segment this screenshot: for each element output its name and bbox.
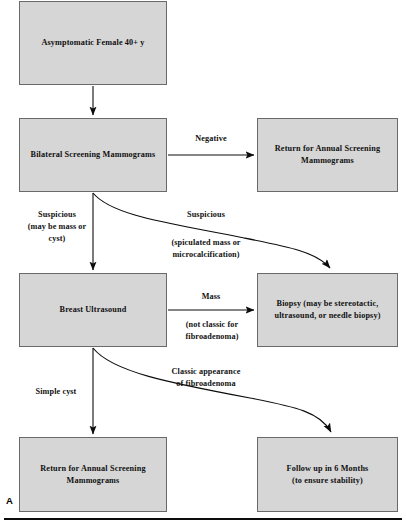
node-biopsy-label: Biopsy (may be stereotactic, ultrasound,… bbox=[274, 298, 380, 321]
node-return-annual-screening-bottom[interactable]: Return for Annual Screening Mammograms bbox=[19, 437, 167, 512]
edge-label-classic-fibroadenoma: Classic appearance of fibroadenoma bbox=[152, 366, 260, 390]
node-breast-ultrasound-label: Breast Ultrasound bbox=[60, 304, 127, 316]
node-return-annual-screening-bottom-label: Return for Annual Screening Mammograms bbox=[40, 463, 145, 486]
edge-label-suspicious-curve-title: Suspicious bbox=[156, 209, 256, 221]
node-follow-up-6-months[interactable]: Follow up in 6 Months (to ensure stabili… bbox=[257, 437, 398, 512]
node-return-annual-screening-top[interactable]: Return for Annual Screening Mammograms bbox=[257, 118, 398, 192]
node-follow-up-6-months-label: Follow up in 6 Months (to ensure stabili… bbox=[287, 463, 369, 486]
edge-label-negative: Negative bbox=[178, 133, 244, 145]
edge-label-suspicious-curve-detail: (spiculated mass or microcalcification) bbox=[148, 237, 264, 261]
node-asymptomatic-female[interactable]: Asymptomatic Female 40+ y bbox=[19, 1, 167, 85]
node-bilateral-screening-mammograms-label: Bilateral Screening Mammograms bbox=[31, 149, 156, 161]
flowchart-canvas: Asymptomatic Female 40+ y Bilateral Scre… bbox=[0, 0, 406, 526]
edge-label-mass-detail: (not classic for fibroadenoma) bbox=[170, 319, 254, 343]
node-breast-ultrasound[interactable]: Breast Ultrasound bbox=[19, 273, 167, 347]
footer-divider bbox=[4, 518, 402, 520]
node-biopsy[interactable]: Biopsy (may be stereotactic, ultrasound,… bbox=[257, 273, 398, 347]
edge-label-simple-cyst: Simple cyst bbox=[14, 386, 98, 398]
panel-letter: A bbox=[6, 495, 13, 506]
edge-label-mass: Mass bbox=[180, 291, 242, 303]
edge-ultrasound-to-followup-curve bbox=[93, 348, 331, 432]
node-bilateral-screening-mammograms[interactable]: Bilateral Screening Mammograms bbox=[19, 118, 167, 192]
node-return-annual-screening-top-label: Return for Annual Screening Mammograms bbox=[275, 143, 380, 166]
edge-label-suspicious-left: Suspicious (may be mass or cyst) bbox=[12, 209, 102, 245]
node-asymptomatic-female-label: Asymptomatic Female 40+ y bbox=[41, 37, 144, 49]
